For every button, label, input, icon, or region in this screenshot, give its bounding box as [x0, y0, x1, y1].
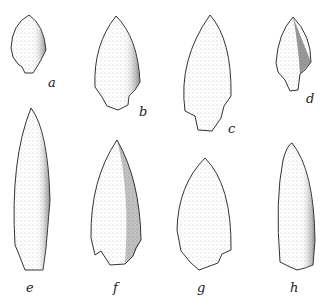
label-f: f: [113, 281, 118, 294]
point-e: [14, 108, 50, 270]
point-b: [95, 16, 140, 110]
label-c: c: [228, 122, 235, 135]
label-h: h: [290, 281, 298, 294]
label-d: d: [306, 92, 314, 105]
label-g: g: [197, 281, 205, 294]
specimen-drawings: [0, 0, 325, 296]
point-c: [184, 15, 231, 131]
label-a: a: [48, 76, 56, 89]
label-e: e: [26, 281, 34, 294]
point-g: [177, 158, 231, 270]
label-b: b: [139, 105, 147, 118]
point-h: [278, 143, 315, 270]
point-a: [11, 15, 46, 73]
point-d: [276, 17, 311, 91]
point-f: [91, 140, 141, 265]
